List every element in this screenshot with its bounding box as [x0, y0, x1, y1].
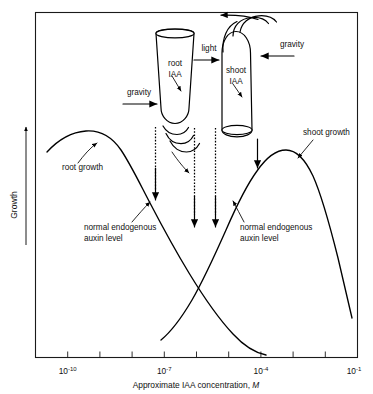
x-tick-label-2: 10-4 — [254, 366, 269, 376]
normal-auxin-left-annotation: normal endogenous auxin level — [84, 202, 156, 243]
y-axis-title: Growth — [9, 191, 19, 219]
plot-frame — [36, 13, 358, 358]
normal-auxin-right-line1: normal endogenous — [240, 223, 312, 232]
bend-direction-arrow — [221, 15, 258, 19]
gravity-left-label: gravity — [127, 88, 152, 97]
normal-auxin-left-line1: normal endogenous — [84, 223, 156, 232]
root-iaa-organ: root IAA — [156, 29, 200, 152]
x-axis-tick-labels: 10-10 10-7 10-4 10-1 — [59, 366, 362, 376]
normal-auxin-right-line2: auxin level — [240, 234, 279, 243]
root-growth-annotation: root growth — [62, 143, 103, 172]
shoot-growth-curve — [161, 150, 352, 340]
gravity-right-group: gravity — [261, 40, 305, 56]
normal-auxin-right-annotation: normal endogenous auxin level — [233, 201, 312, 243]
x-tick-label-1: 10-7 — [157, 366, 172, 376]
shoot-growth-annotation: shoot growth — [298, 128, 350, 158]
shoot-iaa-label-line2: IAA — [229, 77, 243, 86]
shoot-growth-label: shoot growth — [303, 128, 350, 137]
shoot-iaa-label-line1: shoot — [226, 66, 247, 75]
light-arrow-group: light — [194, 44, 219, 60]
root-growth-label: root growth — [62, 163, 103, 172]
gravity-left-group: gravity — [123, 88, 157, 104]
shoot-iaa-organ: shoot IAA — [222, 16, 277, 137]
root-redistribution-arrow-1 — [172, 152, 189, 173]
x-tick-label-0: 10-10 — [59, 366, 78, 376]
normal-auxin-left-line2: auxin level — [84, 234, 123, 243]
x-tick-label-3: 10-1 — [347, 366, 362, 376]
x-axis-title: Approximate IAA concentration, M — [133, 380, 260, 390]
gravity-right-label: gravity — [280, 40, 305, 49]
light-label: light — [201, 44, 217, 53]
auxin-growth-figure: 10-10 10-7 10-4 10-1 Approximate IAA con… — [0, 0, 373, 394]
root-iaa-label-line2: IAA — [168, 70, 182, 79]
root-iaa-label-line1: root — [168, 59, 183, 68]
x-axis-ticks — [68, 352, 326, 358]
